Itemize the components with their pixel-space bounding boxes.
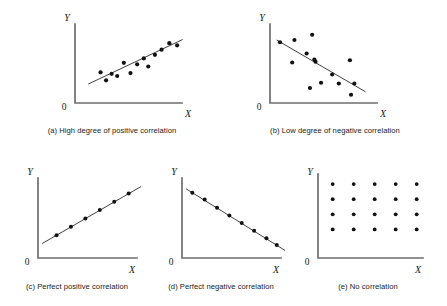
data-point xyxy=(394,182,398,186)
data-point xyxy=(252,229,256,233)
data-point xyxy=(305,51,309,55)
data-point xyxy=(349,93,353,97)
data-point xyxy=(167,41,171,45)
data-point xyxy=(415,228,419,232)
data-point xyxy=(115,74,119,78)
panel-a-high-positive-correlation: Y 0 X (a) High degree of positive correl… xyxy=(6,4,218,152)
data-point xyxy=(104,78,108,82)
data-point xyxy=(331,182,335,186)
trend-line xyxy=(186,189,285,251)
origin-label: 0 xyxy=(257,102,262,112)
y-axis-label: Y xyxy=(27,166,34,177)
data-point xyxy=(319,81,323,85)
axes xyxy=(75,24,182,103)
data-point xyxy=(146,64,150,68)
data-point xyxy=(142,56,146,60)
data-point xyxy=(127,191,131,195)
panel-e-no-correlation: Y 0 X (e) No correlation xyxy=(292,158,444,304)
data-point xyxy=(373,228,377,232)
data-point xyxy=(135,62,139,66)
data-point xyxy=(190,191,194,195)
data-point xyxy=(112,200,116,204)
data-point xyxy=(373,197,377,201)
data-point xyxy=(275,243,279,247)
x-axis-label: X xyxy=(272,264,280,275)
panel-d-caption: (d) Perfect negative correlation xyxy=(148,282,294,291)
data-point xyxy=(373,212,377,216)
panel-b-series xyxy=(277,33,366,97)
data-point xyxy=(352,212,356,216)
data-point xyxy=(330,72,334,76)
x-axis-label: X xyxy=(414,264,422,275)
data-point xyxy=(292,38,296,42)
data-point xyxy=(55,233,59,237)
axes xyxy=(38,178,137,258)
data-point xyxy=(159,48,163,52)
panel-a-caption: (a) High degree of positive correlation xyxy=(6,126,218,135)
data-point xyxy=(308,86,312,90)
data-point xyxy=(264,236,268,240)
data-point xyxy=(98,70,102,74)
data-point xyxy=(122,61,126,65)
data-point xyxy=(240,221,244,225)
y-axis-label: Y xyxy=(64,12,71,23)
panel-e-caption: (e) No correlation xyxy=(292,282,444,291)
data-point xyxy=(69,225,73,229)
data-point xyxy=(415,197,419,201)
panel-b-low-negative-correlation: Y 0 X (b) Low degree of negative correla… xyxy=(228,4,442,152)
y-axis-label: Y xyxy=(259,12,266,23)
data-point xyxy=(128,71,132,75)
data-point xyxy=(175,43,179,47)
data-point xyxy=(215,206,219,210)
data-point xyxy=(352,81,356,85)
x-axis-label: X xyxy=(128,264,136,275)
data-point xyxy=(415,182,419,186)
axes xyxy=(270,24,377,103)
axes xyxy=(318,174,423,258)
data-point xyxy=(394,228,398,232)
panel-b-caption: (b) Low degree of negative correlation xyxy=(228,126,442,135)
panel-b-plot: Y 0 X xyxy=(228,4,442,124)
data-point xyxy=(337,81,341,85)
data-point xyxy=(110,72,114,76)
axes xyxy=(182,178,281,258)
data-point xyxy=(373,182,377,186)
data-point xyxy=(278,40,282,44)
correlation-scatter-figure: Y 0 X (a) High degree of positive correl… xyxy=(0,0,447,306)
panel-a-plot: Y 0 X xyxy=(6,4,218,124)
data-point xyxy=(348,58,352,62)
y-axis-label: Y xyxy=(307,166,314,177)
panel-d-plot: Y 0 X xyxy=(148,158,294,280)
y-axis-label: Y xyxy=(171,166,178,177)
data-point xyxy=(331,197,335,201)
data-point xyxy=(227,213,231,217)
data-point xyxy=(352,182,356,186)
data-point xyxy=(310,33,314,37)
panel-c-perfect-positive-correlation: Y 0 X (c) Perfect positive correlation xyxy=(4,158,150,304)
data-point xyxy=(290,60,294,64)
data-point xyxy=(394,212,398,216)
data-point xyxy=(331,228,335,232)
data-point xyxy=(98,208,102,212)
origin-label: 0 xyxy=(305,257,310,267)
x-axis-label: X xyxy=(184,108,192,119)
data-point xyxy=(352,197,356,201)
panel-e-series xyxy=(331,182,419,231)
origin-label: 0 xyxy=(169,257,174,267)
panel-d-perfect-negative-correlation: Y 0 X (d) Perfect negative correlation xyxy=(148,158,294,304)
data-point xyxy=(153,53,157,57)
data-point xyxy=(83,216,87,220)
panel-c-caption: (c) Perfect positive correlation xyxy=(4,282,150,291)
panel-e-plot: Y 0 X xyxy=(292,158,444,280)
panel-a-series xyxy=(88,39,182,84)
data-point xyxy=(352,228,356,232)
data-point xyxy=(203,197,207,201)
origin-label: 0 xyxy=(25,257,30,267)
data-point xyxy=(331,212,335,216)
panel-c-plot: Y 0 X xyxy=(4,158,150,280)
data-point xyxy=(415,212,419,216)
panel-d-series xyxy=(186,189,285,251)
data-point xyxy=(312,57,316,61)
data-point xyxy=(394,197,398,201)
origin-label: 0 xyxy=(62,102,67,112)
